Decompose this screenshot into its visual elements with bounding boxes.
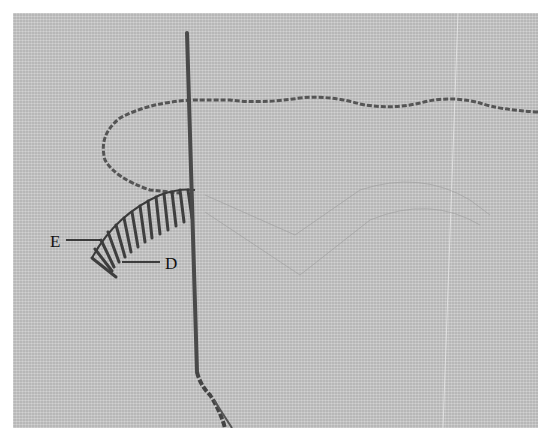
- embroidery-photo: E D: [13, 13, 538, 428]
- label-e: E: [50, 233, 60, 250]
- guide-lines: [205, 182, 490, 275]
- trailing-thread: [197, 372, 225, 428]
- working-thread: [103, 97, 538, 193]
- stitching-illustration: [13, 13, 538, 428]
- label-d: D: [165, 255, 177, 272]
- fabric-crease: [443, 13, 458, 428]
